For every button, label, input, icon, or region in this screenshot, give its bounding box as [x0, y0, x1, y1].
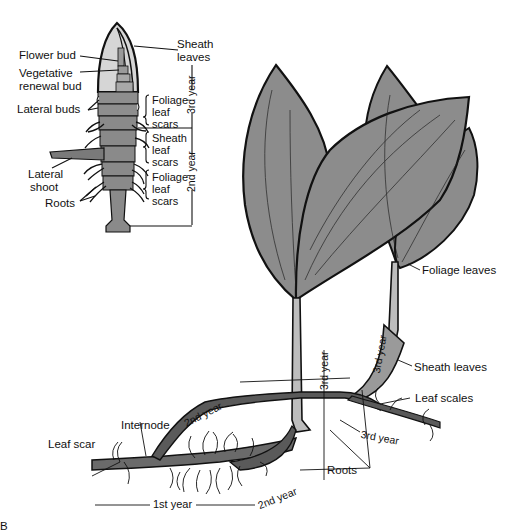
panel-letter: B: [0, 520, 8, 531]
label-foliage-scars-bottom-3: scars: [152, 195, 178, 208]
label-foliage-scars-top-3: scars: [152, 118, 178, 131]
label-internode: Internode: [121, 419, 170, 432]
label-3rd-year-vertical-left: 3rd year: [318, 351, 330, 390]
label-sheath-leaves: Sheath leaves: [414, 361, 487, 374]
label-inset-3rd-year: 3rd year: [185, 75, 197, 114]
label-leaf-scar: Leaf scar: [48, 438, 95, 451]
label-inset-2nd-year: 2nd year: [185, 151, 197, 192]
label-leaf-scales: Leaf scales: [415, 392, 473, 405]
label-flower-bud: Flower bud: [19, 49, 76, 62]
label-sheath-scars-3: scars: [152, 156, 178, 169]
label-inset-roots: Roots: [45, 197, 75, 210]
label-sheath-leaves-line1: Sheath: [177, 38, 213, 51]
label-vegetative-line1: Vegetative: [19, 67, 73, 80]
label-sheath-leaves-line2: leaves: [177, 51, 210, 64]
label-1st-year: 1st year: [153, 498, 192, 511]
main-plant: [92, 65, 477, 505]
label-renewal-bud-line2: renewal bud: [19, 80, 82, 93]
label-foliage-leaves: Foliage leaves: [422, 264, 496, 277]
label-lateral-shoot-line1: Lateral: [28, 168, 63, 181]
label-roots: Roots: [327, 464, 357, 477]
label-lateral-shoot-line2: shoot: [30, 181, 58, 194]
label-lateral-buds: Lateral buds: [17, 103, 80, 116]
